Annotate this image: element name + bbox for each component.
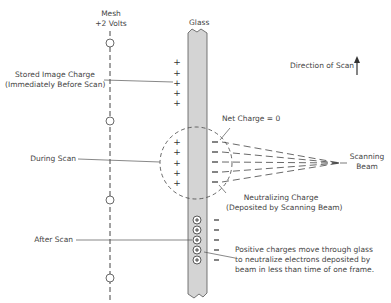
svg-text:+: + [173, 137, 181, 147]
svg-text:+: + [173, 147, 181, 157]
mesh-label: Mesh +2 Volts [92, 9, 130, 29]
stored-label-line2: (Immediately Before Scan) [5, 80, 105, 90]
net-charge-leader [220, 128, 230, 140]
svg-text:+: + [173, 98, 181, 108]
stored-image-charge-label: Stored Image Charge (Immediately Before … [5, 70, 105, 90]
positive-note-line2: to neutralize electrons deposited by [235, 255, 374, 265]
mesh-label-line1: Mesh [92, 9, 130, 19]
during-scan-leader [78, 159, 160, 162]
positive-note-line1: Positive charges move through glass [235, 245, 374, 255]
svg-text:+: + [173, 158, 181, 168]
mesh-label-line2: +2 Volts [92, 19, 130, 29]
scanning-label-line1: Scanning [345, 152, 389, 162]
scanning-label-line2: Beam [345, 162, 389, 172]
mesh-node [106, 39, 114, 47]
positive-note-line3: beam in less than time of one frame. [235, 265, 374, 275]
direction-arrow-head [354, 56, 360, 63]
neutralizing-label-line1: Neutralizing Charge [226, 193, 336, 203]
mesh-node [106, 274, 114, 282]
neutralizing-charge-label: Neutralizing Charge (Deposited by Scanni… [226, 193, 336, 213]
net-charge-label: Net Charge = 0 [222, 114, 280, 124]
stored-plus-charges: + + + + + [173, 57, 181, 108]
svg-text:+: + [173, 88, 181, 98]
neutralizing-label-line2: (Deposited by Scanning Beam) [226, 203, 336, 213]
svg-text:+: + [173, 78, 181, 88]
mesh-node [106, 196, 114, 204]
neutralizing-leader [219, 185, 226, 193]
positive-charges-note: Positive charges move through glass to n… [235, 245, 374, 275]
stored-label-line1: Stored Image Charge [5, 70, 105, 80]
scanning-beam-label: Scanning Beam [345, 152, 389, 172]
direction-of-scan-label: Direction of Scan [290, 61, 354, 71]
positive-charges-leader [204, 252, 235, 258]
stored-charge-leader [104, 80, 173, 82]
during-scan-plus-charges: + + + + + [173, 137, 181, 188]
svg-text:+: + [173, 68, 181, 78]
svg-text:+: + [173, 57, 181, 67]
scanning-beam-lines [222, 142, 340, 182]
neutralizing-minus-charges [212, 142, 218, 182]
svg-text:+: + [173, 168, 181, 178]
mesh-node [106, 117, 114, 125]
glass-label: Glass [189, 18, 209, 28]
svg-text:+: + [173, 178, 181, 188]
during-scan-label: During Scan [20, 154, 76, 164]
after-scan-label: After Scan [20, 235, 73, 245]
